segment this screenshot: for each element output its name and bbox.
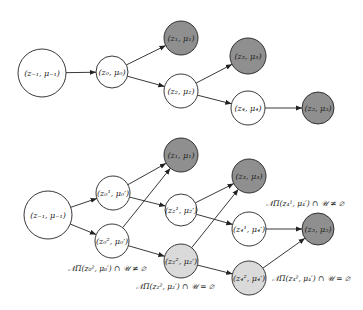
state-node-t_z2: (z₂, μ₂)	[164, 74, 198, 108]
state-node-t_z0: (z₀, μ₀)	[96, 56, 128, 88]
state-node-b_z1: (z₁, μ₁)	[164, 138, 198, 172]
state-node-t_zm1: (z₋₁, μ₋₁)	[18, 49, 66, 97]
state-node-b_zm1: (z₋₁, μ₋₁)	[24, 191, 72, 239]
node-label: (z₀², μ₀′)	[96, 237, 128, 246]
edge-arrow	[126, 46, 165, 65]
top-graph: (z₋₁, μ₋₁)(z₀, μ₀)(z₁, μ₁)(z₂, μ₂)(z₃, μ…	[18, 21, 334, 125]
condition-label-cond_z42: 𝒩Π(z₄², μ₄′) ∩ 𝒰 = ∅	[272, 274, 351, 283]
node-label: (z₄, μ₄)	[234, 104, 261, 113]
node-label: (z₂², μ₂′)	[165, 257, 197, 266]
edge-arrow	[127, 76, 164, 86]
state-node-b_z5: (z₅, μ₅)	[302, 213, 334, 245]
edge-arrow	[128, 163, 166, 184]
node-label: (z₀¹, μ₀′)	[97, 189, 129, 198]
state-node-b_z02: (z₀², μ₀′)	[95, 224, 129, 258]
edge-arrow	[195, 184, 233, 203]
edge-arrow	[196, 64, 232, 83]
node-label: (z₀, μ₀)	[98, 68, 125, 77]
node-label: (z₁, μ₁)	[167, 34, 194, 43]
edge-arrow	[129, 197, 165, 206]
edge-arrow	[70, 224, 96, 235]
edge-arrow	[197, 95, 231, 104]
edge-arrow	[263, 238, 305, 268]
state-node-t_z4: (z₄, μ₄)	[231, 91, 265, 125]
node-label: (z₋₁, μ₋₁)	[24, 69, 60, 78]
top-graph-nodes: (z₋₁, μ₋₁)(z₀, μ₀)(z₁, μ₁)(z₂, μ₂)(z₃, μ…	[18, 21, 334, 125]
node-label: (z₂¹, μ₂′)	[165, 206, 197, 215]
edge-arrow	[192, 189, 239, 247]
edge-arrow	[71, 198, 97, 207]
bottom-graph: (z₋₁, μ₋₁)(z₀¹, μ₀′)(z₀², μ₀′)(z₁, μ₁)(z…	[24, 138, 351, 295]
condition-label-cond_z22: 𝒩Π(z₂², μ₂′) ∩ 𝒰 = ∅	[136, 282, 215, 291]
state-node-t_z1: (z₁, μ₁)	[164, 21, 198, 55]
state-node-b_z21: (z₂¹, μ₂′)	[165, 194, 197, 226]
node-label: (z₁, μ₁)	[167, 151, 194, 160]
state-node-t_z5: (z₅, μ₅)	[302, 92, 334, 124]
node-label: (z₅, μ₅)	[304, 104, 331, 113]
node-label: (z₃, μ₃)	[235, 172, 262, 181]
state-node-b_z42: (z₄², μ₄′)	[232, 261, 266, 295]
edge-arrow	[123, 168, 171, 227]
node-label: (z₋₁, μ₋₁)	[30, 211, 66, 220]
state-node-b_z41: (z₄¹, μ₄′)	[232, 212, 266, 246]
state-node-b_z3: (z₃, μ₃)	[232, 159, 266, 193]
condition-label-cond_z02: 𝒩Π(z₀², μ₀′) ∩ 𝒰 ≠ ∅	[68, 264, 147, 273]
state-node-b_z22: (z₂², μ₂′)	[164, 244, 198, 278]
node-label: (z₂, μ₂)	[167, 87, 194, 96]
edge-arrow	[197, 265, 232, 274]
state-transition-diagram: (z₋₁, μ₋₁)(z₀, μ₀)(z₁, μ₁)(z₂, μ₂)(z₃, μ…	[0, 0, 363, 310]
node-label: (z₄¹, μ₄′)	[233, 225, 265, 234]
node-label: (z₅, μ₅)	[304, 225, 331, 234]
condition-label-cond_z41: 𝒩Π(z₄¹, μ₄′) ∩ 𝒰 ≠ ∅	[266, 199, 345, 208]
node-label: (z₄², μ₄′)	[233, 274, 265, 283]
node-label: (z₃, μ₃)	[234, 52, 261, 61]
state-node-b_z01: (z₀¹, μ₀′)	[96, 176, 130, 210]
state-node-t_z3: (z₃, μ₃)	[230, 38, 266, 74]
edge-arrow	[128, 246, 164, 257]
